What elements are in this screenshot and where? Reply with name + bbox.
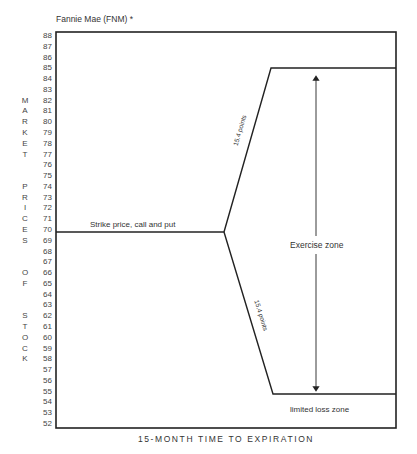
x-axis-label: 15-MONTH TIME TO EXPIRATION [56,434,396,444]
lower-breakeven-line [224,232,396,394]
strike-price-label: Strike price, call and put [90,220,175,229]
limited-loss-zone-label: limited loss zone [290,405,349,414]
exercise-zone-label: Exercise zone [290,240,343,250]
lower-diagonal-label: 15.4 points [252,299,269,332]
plot-area: 15.4 points 15.4 points [0,0,417,454]
upper-breakeven-line [224,68,396,232]
upper-diagonal-label: 15.4 points [232,113,249,146]
plot-frame [56,32,396,428]
